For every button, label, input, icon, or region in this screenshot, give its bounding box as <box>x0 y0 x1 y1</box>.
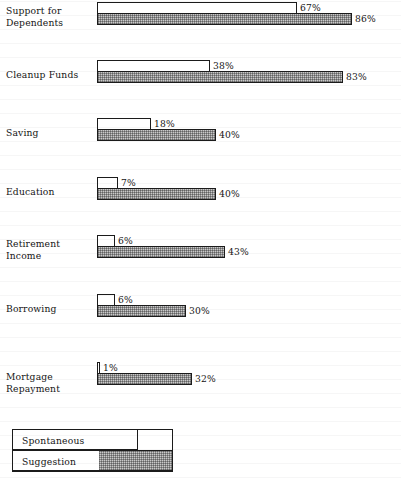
bar-suggestion[interactable]: 83% <box>97 71 343 83</box>
bar-pair: 38% 83% <box>97 60 343 83</box>
bar-value-label: 40% <box>219 189 240 199</box>
category-label: Retirement Income <box>6 238 94 261</box>
bar-value-label: 32% <box>195 374 216 384</box>
bar-suggestion[interactable]: 30% <box>97 305 186 317</box>
bar-pair: 18% 40% <box>97 118 216 141</box>
legend-label: Spontaneous <box>22 434 85 445</box>
bar-value-label: 40% <box>219 130 240 140</box>
bar-suggestion[interactable]: 40% <box>97 188 216 200</box>
bar-suggestion[interactable]: 32% <box>97 373 192 385</box>
bar-value-label: 67% <box>300 3 321 13</box>
bar-value-label: 30% <box>189 306 210 316</box>
bar-value-label: 1% <box>103 363 118 373</box>
bar-pair: 6% 30% <box>97 294 186 317</box>
bar-value-label: 6% <box>118 236 133 246</box>
bar-pair: 7% 40% <box>97 177 216 200</box>
bar-value-label: 7% <box>121 178 136 188</box>
legend-item-spontaneous[interactable]: Spontaneous <box>12 429 138 450</box>
bar-value-label: 83% <box>346 72 367 82</box>
bar-suggestion[interactable]: 40% <box>97 129 216 141</box>
legend-label: Suggestion <box>22 455 76 466</box>
bar-value-label: 18% <box>154 119 175 129</box>
bar-suggestion[interactable]: 86% <box>97 13 352 25</box>
bar-value-label: 86% <box>355 14 376 24</box>
bar-value-label: 43% <box>228 247 249 257</box>
category-label: Education <box>6 186 94 198</box>
category-label: Saving <box>6 127 94 139</box>
legend-item-suggestion[interactable]: Suggestion <box>12 450 173 471</box>
bar-pair: 6% 43% <box>97 235 225 258</box>
category-label: Support for Dependents <box>6 5 94 28</box>
bar-value-label: 38% <box>213 61 234 71</box>
bar-pair: 67% 86% <box>97 2 352 25</box>
legend-swatch-suggestion <box>99 451 172 470</box>
bar-value-label: 6% <box>118 295 133 305</box>
grouped-bar-chart: Support for Dependents 67% 86% Cleanup F… <box>0 0 401 478</box>
bar-suggestion[interactable]: 43% <box>97 246 225 258</box>
chart-legend: Spontaneous Suggestion <box>12 429 173 472</box>
category-label: Borrowing <box>6 303 94 315</box>
bar-pair: 1% 32% <box>97 362 192 385</box>
category-label: Mortgage Repayment <box>6 371 94 394</box>
category-label: Cleanup Funds <box>6 69 94 81</box>
